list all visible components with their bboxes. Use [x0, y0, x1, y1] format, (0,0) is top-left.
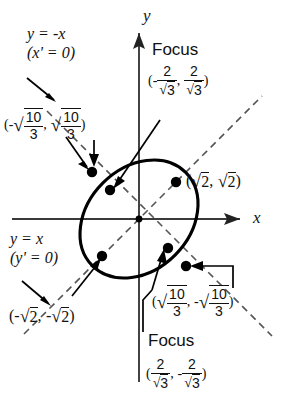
focus-top-x-fraction: 2√3 — [157, 64, 176, 98]
label-line-neg-equation: y = -x — [27, 25, 65, 42]
leader-focus-top — [113, 120, 160, 189]
radical-icon: √ — [218, 172, 228, 191]
focus-bottom-x-denominator: √3 — [151, 374, 170, 392]
axis-y-label: y — [143, 7, 151, 25]
vlr-x-numerator: 10 — [167, 287, 187, 304]
paren-close: ) — [81, 117, 86, 132]
vlr-x-denominator: 3 — [167, 304, 187, 320]
label-vertex-lower-right: (√103, -√103) — [152, 285, 233, 319]
radical-icon: √ — [157, 292, 167, 312]
focus-top-x-denominator: √3 — [157, 81, 176, 99]
axis-x-label: x — [253, 209, 261, 227]
leader-line-neg-x — [27, 78, 56, 102]
vlr-y-denominator: 3 — [209, 304, 229, 320]
label-vertex-upper-left: (-√103, √103) — [4, 108, 85, 142]
focus-bottom-y-fraction: 2√3 — [182, 357, 201, 391]
label-line-y-equals-neg-x: y = -x (x' = 0) — [27, 26, 75, 62]
comma-1: , — [177, 73, 181, 88]
paren-close: ) — [229, 294, 234, 309]
radical-icon: √ — [159, 82, 167, 98]
cur-y-value: 2 — [228, 172, 236, 191]
paren-close: ) — [204, 73, 209, 88]
vul-y-fraction: 103 — [61, 110, 81, 142]
radical-icon: √ — [51, 307, 61, 326]
comma-3: , — [209, 172, 213, 189]
label-focus-coords-top: (-2√3, 2√3) — [148, 64, 208, 98]
radical-icon: √ — [191, 172, 201, 191]
focus-bottom-x-fraction: 2√3 — [151, 357, 170, 391]
point-vertex-lower-right — [181, 261, 191, 271]
radical-icon: √ — [199, 292, 209, 312]
focus-top-y-numerator: 2 — [184, 64, 203, 81]
label-focus-word-top: Focus — [152, 41, 198, 59]
vlr-x-fraction: 103 — [167, 287, 187, 319]
label-line-pos-equation: y = x — [10, 230, 43, 247]
comma-4: , — [38, 307, 42, 324]
vlr-y-fraction: 103 — [209, 287, 229, 319]
focus-bottom-y-numerator: 2 — [182, 357, 201, 374]
label-covertex-upper-right: (√2, √2) — [186, 172, 241, 191]
paren-close: ) — [236, 172, 241, 189]
radical-icon: √ — [13, 115, 23, 135]
vul-y-denominator: 3 — [61, 127, 81, 143]
point-covertex-lower-left — [97, 251, 107, 261]
vul-x-numerator: 10 — [24, 110, 44, 127]
vul-y-numerator: 10 — [61, 110, 81, 127]
focus-bottom-x-numerator: 2 — [151, 357, 170, 374]
leader-covertex-lower-left — [72, 258, 101, 296]
label-line-pos-rotated: (y' = 0) — [10, 249, 58, 266]
focus-top-y-denominator: √3 — [184, 81, 203, 99]
label-line-neg-rotated: (x' = 0) — [27, 44, 75, 61]
comma-2: , — [43, 117, 47, 132]
radical-icon: √ — [51, 115, 61, 135]
point-focus-upper-left — [105, 185, 115, 195]
comma-5: , — [187, 294, 191, 309]
cll-x-value: 2 — [30, 307, 38, 326]
vul-x-denominator: 3 — [24, 127, 44, 143]
radical-icon: √ — [184, 375, 192, 391]
focus-bottom-y-denominator: √3 — [182, 374, 201, 392]
paren-close: ) — [69, 307, 74, 324]
point-vertex-upper-left — [87, 167, 97, 177]
radical-icon: √ — [186, 82, 194, 98]
radical-icon: √ — [20, 307, 30, 326]
leader-line-pos-x — [22, 281, 51, 306]
comma-6: , — [170, 366, 174, 381]
label-line-y-equals-x: y = x (y' = 0) — [10, 231, 58, 267]
radical-icon: √ — [153, 375, 161, 391]
label-focus-word-bottom: Focus — [148, 332, 194, 350]
point-origin — [136, 216, 143, 223]
paren-close: ) — [202, 366, 207, 381]
vul-x-fraction: 103 — [24, 110, 44, 142]
point-covertex-upper-right — [171, 177, 181, 187]
label-focus-coords-bottom: (2√3, -2√3) — [146, 357, 206, 391]
focus-top-x-numerator: 2 — [157, 64, 176, 81]
focus-top-y-fraction: 2√3 — [184, 64, 203, 98]
vlr-y-numerator: 10 — [209, 287, 229, 304]
label-covertex-lower-left: (-√2, -√2) — [9, 307, 75, 326]
